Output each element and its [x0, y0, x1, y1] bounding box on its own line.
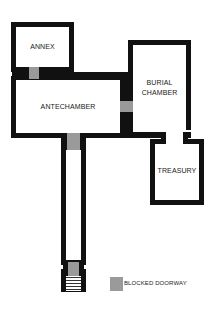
blocked-doorway-burial-chamber: [120, 101, 133, 112]
antechamber-label: ANTECHAMBER: [16, 102, 120, 111]
annex-label: ANNEX: [16, 42, 69, 51]
legend-label-blocked-doorway: BLOCKED DOORWAY: [124, 279, 187, 288]
blocked-doorway-annex: [29, 67, 39, 79]
blocked-doorway-corridor-top: [67, 133, 80, 150]
blocked-doorway-corridor-bottom: [68, 262, 79, 276]
burial-chamber-label-line2: CHAMBER: [133, 88, 186, 97]
legend-swatch-blocked-doorway: [110, 277, 123, 291]
treasury-label: TREASURY: [155, 166, 199, 175]
burial-chamber-label-line1: BURIAL: [133, 78, 186, 87]
